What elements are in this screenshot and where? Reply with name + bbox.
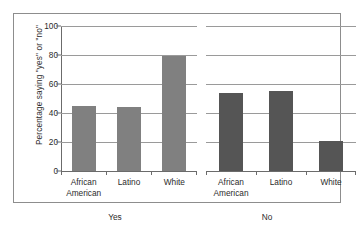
cat-label-yes-african-american: African American bbox=[61, 177, 106, 198]
bar-no-white[interactable] bbox=[319, 141, 343, 171]
panel-no-bars bbox=[206, 26, 356, 171]
bar-slot-yes-latino bbox=[106, 26, 151, 171]
panel-no: African American Latino White bbox=[206, 26, 356, 171]
y-tick-label-80: 80 bbox=[34, 50, 58, 60]
group-label-no: No bbox=[192, 212, 342, 222]
panel-yes-category-labels: African American Latino White bbox=[61, 177, 197, 198]
cat-label-yes-african-american-line2: American bbox=[61, 188, 106, 199]
group-label-yes: Yes bbox=[47, 212, 183, 222]
plot-frame: Percentage saying "yes" or "no" 100 80 6… bbox=[13, 13, 341, 203]
panel-no-baseline bbox=[206, 171, 356, 172]
cat-label-no-latino: Latino bbox=[256, 177, 306, 198]
bar-slot-yes-african-american bbox=[61, 26, 106, 171]
panel-yes-basetick-2 bbox=[151, 171, 152, 175]
y-tick-label-60: 60 bbox=[34, 79, 58, 89]
cat-label-yes-white: White bbox=[152, 177, 197, 198]
cat-label-no-african-american-line1: African bbox=[206, 177, 256, 188]
panel-yes-basetick-0 bbox=[61, 171, 62, 175]
cat-label-no-white-line1: White bbox=[306, 177, 356, 188]
bar-yes-white[interactable] bbox=[162, 56, 186, 171]
plot-area: African American Latino White bbox=[61, 26, 337, 171]
panel-no-basetick-1 bbox=[256, 171, 257, 175]
panel-yes-baseline bbox=[61, 171, 197, 172]
y-tick-label-20: 20 bbox=[34, 137, 58, 147]
bar-slot-no-white bbox=[306, 26, 356, 171]
bar-yes-african-american[interactable] bbox=[72, 106, 96, 171]
bar-no-african-american[interactable] bbox=[219, 93, 243, 171]
y-tick-label-40: 40 bbox=[34, 108, 58, 118]
panel-no-basetick-2 bbox=[306, 171, 307, 175]
panel-no-basetick-0 bbox=[206, 171, 207, 175]
cat-label-no-african-american: African American bbox=[206, 177, 256, 198]
y-tick-label-0: 0 bbox=[34, 166, 58, 176]
cat-label-yes-latino-line1: Latino bbox=[106, 177, 151, 188]
bar-slot-yes-white bbox=[152, 26, 197, 171]
bar-yes-latino[interactable] bbox=[117, 107, 141, 171]
y-axis-tick-labels: 100 80 60 40 20 0 bbox=[32, 14, 58, 202]
bar-slot-no-latino bbox=[256, 26, 306, 171]
cat-label-no-white: White bbox=[306, 177, 356, 198]
cat-label-no-african-american-line2: American bbox=[206, 188, 256, 199]
cat-label-no-latino-line1: Latino bbox=[256, 177, 306, 188]
panel-yes: African American Latino White bbox=[61, 26, 197, 171]
cat-label-yes-african-american-line1: African bbox=[61, 177, 106, 188]
cat-label-yes-white-line1: White bbox=[152, 177, 197, 188]
panel-yes-basetick-3 bbox=[196, 171, 197, 175]
bar-no-latino[interactable] bbox=[269, 91, 293, 171]
panel-no-category-labels: African American Latino White bbox=[206, 177, 356, 198]
bar-slot-no-african-american bbox=[206, 26, 256, 171]
panel-yes-bars bbox=[61, 26, 197, 171]
y-tick-label-100: 100 bbox=[34, 21, 58, 31]
panel-yes-basetick-1 bbox=[106, 171, 107, 175]
cat-label-yes-latino: Latino bbox=[106, 177, 151, 198]
